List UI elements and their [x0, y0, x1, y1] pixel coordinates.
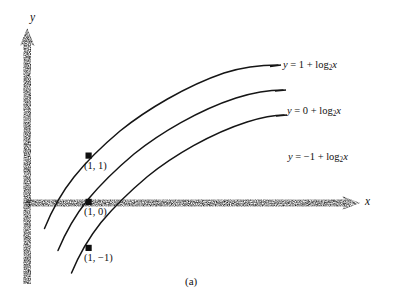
curve-label-top: y = 1 + log2x: [283, 60, 337, 71]
curve-bottom: [72, 115, 285, 273]
leader-line-middle: [275, 90, 286, 91]
logarithm-shift-figure: y x y = 1 + log2x y = 0 + log2x y = −1 +…: [0, 0, 399, 302]
curve-label-bottom-eq: = −1 + log: [293, 151, 340, 162]
y-axis-label: y: [30, 12, 35, 24]
curve-label-top-eq: = 1 + log: [288, 59, 329, 70]
curve-label-middle-base: 2: [333, 110, 337, 118]
curve-label-bottom: y = −1 + log2x: [288, 152, 348, 163]
x-axis: [26, 196, 360, 210]
y-axis: [20, 28, 35, 284]
point-marker-1-minus-1: [86, 245, 92, 251]
point-label-1-1: (1, 1): [84, 161, 107, 172]
point-label-1-0: (1, 0): [84, 207, 107, 218]
figure-caption: (a): [185, 276, 197, 287]
curve-label-middle: y = 0 + log2x: [287, 106, 341, 117]
x-axis-label: x: [365, 196, 370, 208]
curve-label-middle-arg: x: [336, 105, 341, 116]
curve-label-bottom-base: 2: [340, 156, 344, 164]
curve-label-middle-eq: = 0 + log: [292, 105, 333, 116]
curve-label-top-arg: x: [332, 59, 337, 70]
curve-label-bottom-arg: x: [343, 151, 348, 162]
point-marker-1-0: [86, 199, 92, 205]
curve-label-top-base: 2: [329, 64, 333, 72]
point-label-1-minus-1: (1, −1): [84, 253, 113, 264]
point-marker-1-1: [86, 153, 92, 159]
leader-line-bottom: [276, 115, 287, 116]
